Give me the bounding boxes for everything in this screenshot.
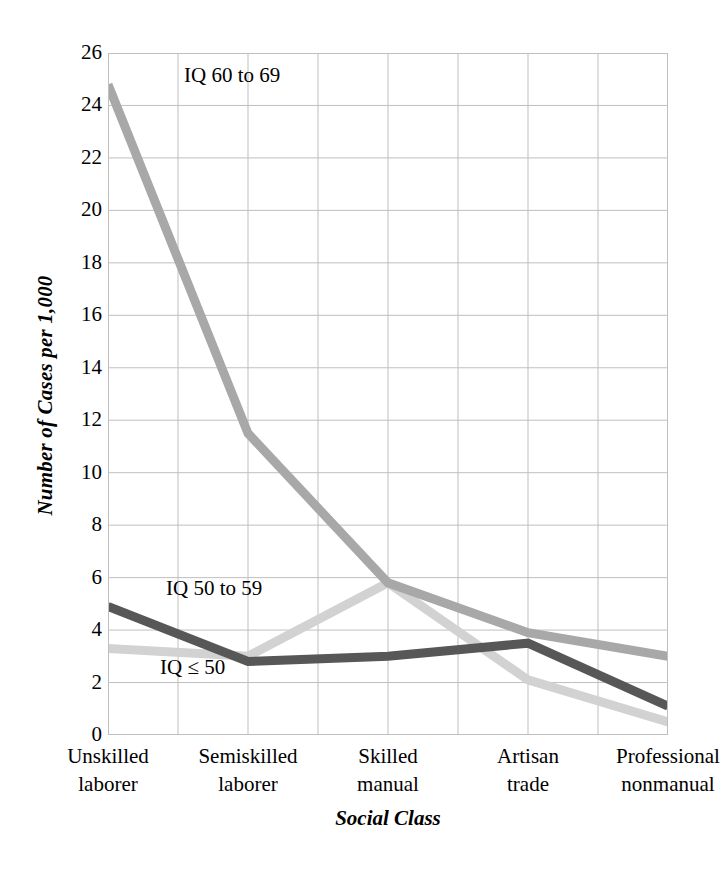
y-axis-tick-label: 12: [56, 409, 102, 430]
x-axis-tick-label: Unskilledlaborer: [28, 742, 188, 798]
plot-area: [108, 53, 668, 735]
x-axis-tick-label-line-2: manual: [308, 770, 468, 798]
y-axis-tick-label: 16: [56, 304, 102, 325]
series-label-iq-50-to-59: IQ 50 to 59: [166, 578, 262, 599]
y-axis-tick-label: 14: [56, 357, 102, 378]
x-axis-tick-label-line-2: laborer: [168, 770, 328, 798]
y-axis-tick-label: 18: [56, 252, 102, 273]
x-axis-tick-label: Semiskilledlaborer: [168, 742, 328, 798]
y-axis-tick-label: 24: [56, 94, 102, 115]
x-axis-tick-label: Artisantrade: [448, 742, 608, 798]
x-axis-tick-label-line-1: Artisan: [448, 742, 608, 770]
grid-lines: [108, 53, 668, 735]
series-label-iq-60-to-69: IQ 60 to 69: [184, 65, 280, 86]
y-axis-tick-label: 8: [56, 514, 102, 535]
y-axis-tick-label: 26: [56, 42, 102, 63]
x-axis-tick-label-line-1: Semiskilled: [168, 742, 328, 770]
y-axis-tick-label: 22: [56, 147, 102, 168]
x-axis-tick-label-line-2: trade: [448, 770, 608, 798]
x-axis-title: Social Class: [108, 806, 668, 831]
x-axis-tick-label: Skilledmanual: [308, 742, 468, 798]
x-axis-tick-label-line-1: Professional: [588, 742, 724, 770]
y-axis-tick-label: 20: [56, 199, 102, 220]
x-axis-tick-label-line-2: laborer: [28, 770, 188, 798]
y-axis-tick-label: 4: [56, 619, 102, 640]
x-axis-tick-label-line-1: Unskilled: [28, 742, 188, 770]
x-axis-tick-label: Professionalnonmanual: [588, 742, 724, 798]
x-axis-tick-labels: UnskilledlaborerSemiskilledlaborerSkille…: [108, 742, 668, 804]
x-axis-tick-label-line-1: Skilled: [308, 742, 468, 770]
y-axis-tick-labels: 26242220181614121086420: [42, 0, 102, 869]
series-label-iq-le-50: IQ ≤ 50: [160, 657, 225, 678]
y-axis-tick-label: 10: [56, 462, 102, 483]
plot-svg: [108, 53, 668, 735]
x-axis-tick-label-line-2: nonmanual: [588, 770, 724, 798]
y-axis-tick-label: 2: [56, 672, 102, 693]
y-axis-tick-label: 6: [56, 567, 102, 588]
